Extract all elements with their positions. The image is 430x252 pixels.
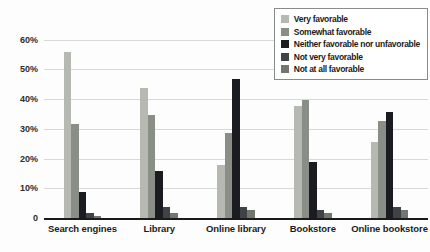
legend-label: Somewhat favorable xyxy=(294,27,371,37)
bar-group xyxy=(371,112,409,219)
bar-group xyxy=(64,52,102,219)
x-axis-category-label: Search engines xyxy=(44,223,121,234)
y-axis-tick-label: 0 xyxy=(2,213,38,224)
legend-item: Not at all favorable xyxy=(281,64,420,74)
bar xyxy=(309,162,317,219)
bar xyxy=(378,121,386,219)
bar xyxy=(79,192,87,219)
y-axis-tick-label: 20% xyxy=(2,154,38,165)
bar xyxy=(386,112,394,219)
legend-swatch-icon xyxy=(281,53,289,61)
bar xyxy=(155,171,163,219)
legend-swatch-icon xyxy=(281,40,289,48)
legend-swatch-icon xyxy=(281,65,289,73)
legend-swatch-icon xyxy=(281,28,289,36)
legend-item: Neither favorable nor unfavorable xyxy=(281,39,420,49)
y-axis-tick-label: 60% xyxy=(2,35,38,46)
bar-group xyxy=(294,100,332,219)
legend: Very favorableSomewhat favorableNeither … xyxy=(274,8,428,80)
favorability-bar-chart: 60%50%40%30%20%10%0 Search enginesLibrar… xyxy=(0,0,430,252)
legend-label: Neither favorable nor unfavorable xyxy=(294,39,420,49)
y-axis-tick-label: 30% xyxy=(2,124,38,135)
y-axis-tick-label: 50% xyxy=(2,64,38,75)
y-axis-tick-label: 10% xyxy=(2,183,38,194)
bar xyxy=(225,133,233,219)
bar-group xyxy=(217,79,255,219)
legend-label: Not at all favorable xyxy=(294,64,364,74)
legend-label: Very favorable xyxy=(294,14,348,24)
x-axis-baseline xyxy=(44,218,428,220)
bar xyxy=(64,52,72,219)
legend-swatch-icon xyxy=(281,15,289,23)
bar xyxy=(302,100,310,219)
x-axis-category-label: Bookstore xyxy=(274,223,351,234)
legend-item: Not very favorable xyxy=(281,52,420,62)
bar xyxy=(371,142,379,219)
legend-item: Very favorable xyxy=(281,14,420,24)
bar xyxy=(148,115,156,219)
x-axis-category-label: Online library xyxy=(198,223,275,234)
bar xyxy=(217,165,225,219)
x-axis-category-label: Online bookstore xyxy=(351,223,428,234)
y-axis-tick-label: 40% xyxy=(2,94,38,105)
x-axis-category-label: Library xyxy=(121,223,198,234)
bar xyxy=(232,79,240,219)
x-axis-labels: Search enginesLibraryOnline libraryBooks… xyxy=(44,223,428,234)
bar xyxy=(294,106,302,219)
bar-group xyxy=(140,88,178,219)
bar xyxy=(140,88,148,219)
bar xyxy=(71,124,79,219)
legend-label: Not very favorable xyxy=(294,52,363,62)
legend-item: Somewhat favorable xyxy=(281,27,420,37)
